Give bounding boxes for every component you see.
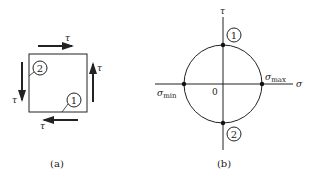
tau-label-top: τ (65, 33, 71, 43)
tau-axis-label: τ (220, 6, 226, 16)
caption-b: (b) (217, 158, 231, 169)
point-1-dot (221, 43, 225, 47)
tau-label-bottom: τ (40, 121, 46, 131)
figure-b-mohr-circle: τ σ 0 σmin σmax 1 2 (b) (155, 6, 303, 169)
sigma-max-label: σmax (265, 72, 286, 84)
point-2-dot (221, 121, 225, 125)
origin-label: 0 (212, 87, 218, 97)
figure-a-pure-shear-element: τ τ τ τ 2 1 (a) (12, 33, 103, 169)
mohr-point-1-label: 1 (231, 30, 237, 41)
sigma-min-label: σmin (157, 88, 177, 100)
sigma-min-dot (182, 82, 186, 86)
sigma-axis-label: σ (296, 79, 303, 89)
point-2-leader (29, 72, 34, 76)
point-1-label: 1 (71, 95, 77, 106)
point-1-leader (62, 104, 68, 112)
sigma-max-dot (260, 82, 264, 86)
caption-a: (a) (50, 158, 64, 169)
tau-label-right: τ (97, 63, 103, 73)
tau-label-left: τ (12, 95, 18, 105)
diagram-canvas: τ τ τ τ 2 1 (a) τ σ 0 σmin σmax 1 2 (b) (0, 0, 312, 179)
point-2-label: 2 (37, 63, 43, 74)
mohr-point-2-label: 2 (231, 129, 237, 140)
